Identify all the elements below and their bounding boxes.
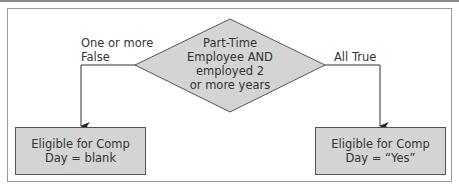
true-branch-label: All True [334, 50, 376, 64]
decision-line-2: Employee AND [170, 50, 290, 64]
false-label-line-1: One or more [81, 36, 153, 50]
outcome-blank-line-2: Day = blank [15, 151, 146, 165]
false-label-line-2: False [81, 50, 153, 64]
outcome-yes-line-1: Eligible for Comp [315, 137, 446, 151]
outcome-text-yes: Eligible for Comp Day = “Yes” [315, 137, 446, 165]
outcome-text-blank: Eligible for Comp Day = blank [15, 137, 146, 165]
decision-line-3: employed 2 [170, 64, 290, 78]
decision-text: Part-Time Employee AND employed 2 or mor… [170, 36, 290, 92]
false-branch-label: One or more False [81, 36, 153, 64]
decision-line-4: or more years [170, 78, 290, 92]
decision-line-1: Part-Time [170, 36, 290, 50]
outcome-blank-line-1: Eligible for Comp [15, 137, 146, 151]
true-branch-connector [325, 65, 380, 126]
false-branch-connector [81, 65, 136, 126]
outcome-yes-line-2: Day = “Yes” [315, 151, 446, 165]
